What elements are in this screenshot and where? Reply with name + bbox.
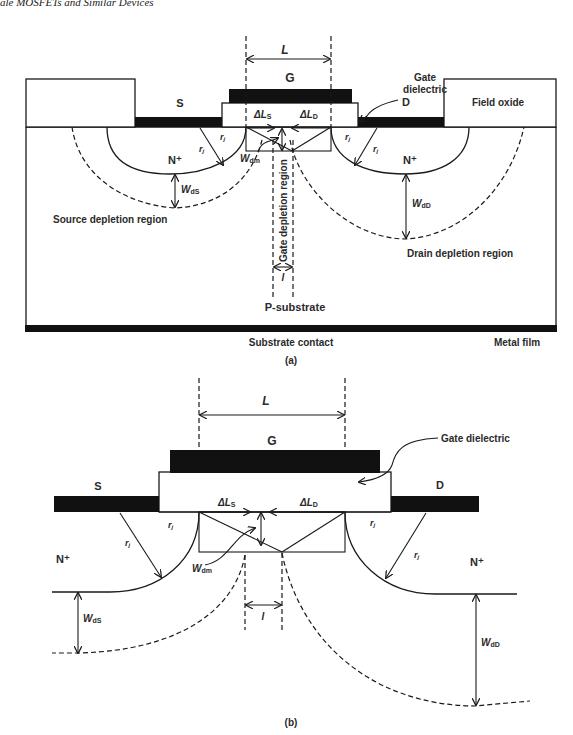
source-contact-b <box>54 496 159 512</box>
label-drain-depletion-region: Drain depletion region <box>407 248 513 259</box>
gate-electrode-b <box>170 450 380 473</box>
label-n-plus-source: N⁺ <box>168 154 182 166</box>
label-gate-b: G <box>267 434 276 448</box>
label-field-oxide: Field oxide <box>472 97 525 108</box>
label-n-plus-drain: N⁺ <box>403 154 417 166</box>
source-depletion-boundary-b <box>52 555 245 653</box>
channel-depletion-box <box>246 127 331 151</box>
source-contact <box>135 117 222 127</box>
field-oxide-left <box>26 79 135 127</box>
gate-dielectric <box>222 103 358 127</box>
drain-contact-b <box>391 496 479 512</box>
label-drain-b: D <box>436 479 444 491</box>
channel-depletion-box-b <box>199 512 345 552</box>
label-source-b: S <box>94 480 101 492</box>
label-drain: D <box>402 96 410 108</box>
source-depletion-boundary <box>72 127 262 208</box>
source-charge-diagonal-b <box>199 512 282 552</box>
label-rj-b-2: rj <box>125 538 131 548</box>
label-rj-1: rj <box>220 132 226 142</box>
label-metal-film: Metal film <box>494 337 540 348</box>
label-L: L <box>281 43 288 57</box>
label-L-b: L <box>262 394 269 408</box>
label-n-plus-source-b: N⁺ <box>56 553 70 565</box>
label-gate: G <box>285 71 294 85</box>
label-rj-b-3: rj <box>370 518 376 528</box>
drain-contact <box>358 117 444 127</box>
caption-a: (a) <box>285 355 297 366</box>
label-rj-3: rj <box>345 132 351 142</box>
label-wds-b: WdS <box>83 613 102 624</box>
metal-film <box>25 325 557 332</box>
drain-depletion-boundary-b <box>282 553 530 706</box>
label-gate-dielectric-b: Gate dielectric <box>441 433 510 444</box>
label-gate-dielectric-2: dielectric <box>403 84 447 95</box>
drain-depletion-boundary <box>290 127 524 239</box>
wdm-pointer <box>258 138 278 152</box>
label-l: l <box>282 272 285 283</box>
source-junction <box>107 127 246 174</box>
label-l-b: l <box>262 611 265 622</box>
label-rj-b-4: rj <box>414 550 420 560</box>
label-gate-depletion-region: Gate depletion region <box>278 159 289 262</box>
label-wdm-b: Wdm <box>192 563 212 574</box>
label-substrate-contact: Substrate contact <box>249 337 334 348</box>
source-charge-diagonal <box>246 127 292 151</box>
label-source-depletion-region: Source depletion region <box>53 214 167 225</box>
label-wds: WdS <box>181 184 200 195</box>
label-rj-4: rj <box>373 144 379 154</box>
gate-electrode <box>229 89 352 103</box>
caption-b: (b) <box>285 717 298 728</box>
label-n-plus-drain-b: N⁺ <box>470 556 484 568</box>
label-rj-2: rj <box>199 144 205 154</box>
label-wdd: WdD <box>412 198 431 209</box>
drain-charge-diagonal-b <box>282 512 345 552</box>
drain-charge-diagonal <box>292 127 331 151</box>
label-rj-b-1: rj <box>168 520 174 530</box>
figure-b: L G Gate dielectric S D ΔLS ΔLD rj rj rj… <box>52 378 530 728</box>
source-junction-b <box>52 512 199 592</box>
mosfet-cross-section-figure: L G Gate dielectric S D Field oxide ΔLS … <box>0 0 573 735</box>
label-p-substrate: P-substrate <box>265 301 326 313</box>
drain-junction <box>331 127 469 174</box>
rj-arrow-drain-b <box>386 513 426 578</box>
label-source: S <box>176 97 183 109</box>
gate-dielectric-b <box>159 472 391 512</box>
label-wdm: Wdm <box>240 153 260 164</box>
figure-a: L G Gate dielectric S D Field oxide ΔLS … <box>25 36 557 366</box>
label-wdd-b: WdD <box>481 637 500 648</box>
substrate-walls <box>26 127 556 326</box>
label-gate-dielectric-1: Gate <box>414 72 437 83</box>
wdm-pointer-b <box>205 528 255 565</box>
